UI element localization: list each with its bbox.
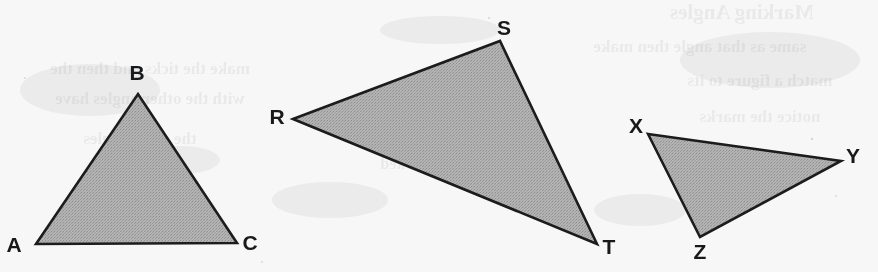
vertex-label-r: R (269, 105, 284, 128)
show-through-line: make the ticks and then the (50, 59, 250, 78)
vertex-label-z: Z (694, 240, 707, 263)
figure-canvas: Marking Anglessame as that angle then ma… (0, 0, 878, 272)
show-through-line: notice the marks (699, 107, 820, 126)
vertex-label-y: Y (846, 144, 860, 167)
vertex-label-c: C (242, 231, 257, 254)
vertex-label-s: S (497, 16, 511, 39)
show-through-line: match a figure to its (687, 71, 832, 90)
vertex-label-x: X (629, 114, 643, 137)
vertex-label-t: T (603, 235, 616, 258)
triangles-figure: Marking Anglessame as that angle then ma… (0, 0, 878, 272)
show-through-line: same as that angle then make (593, 37, 806, 56)
vertex-label-b: B (129, 61, 144, 84)
show-through-line: Marking Angles (670, 0, 814, 24)
vertex-label-a: A (6, 233, 21, 256)
show-through-line: with the other angles have (55, 89, 245, 108)
